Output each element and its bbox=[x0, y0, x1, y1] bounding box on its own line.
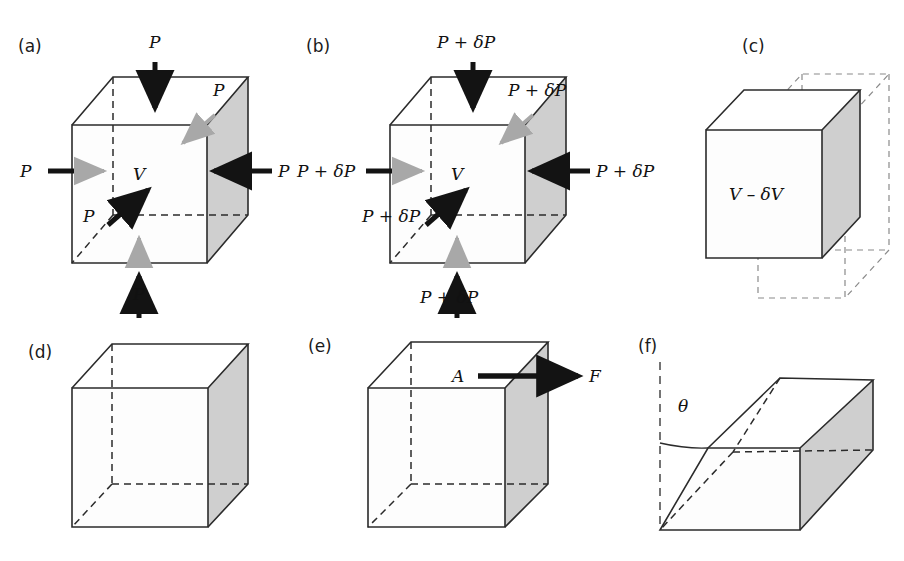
panel-c: (c) V – δV bbox=[706, 36, 889, 298]
panel-c-compressed-cube bbox=[706, 90, 860, 258]
panel-b-top-label: P + δP bbox=[436, 32, 496, 52]
panel-b-bottom-label: P + δP bbox=[419, 287, 479, 307]
panel-a-label: (a) bbox=[18, 36, 42, 56]
figure-canvas: (a) P P P bbox=[0, 0, 904, 561]
panel-f: (f) bbox=[638, 336, 873, 530]
panel-a-bottom-label: P bbox=[132, 284, 145, 304]
panel-b-back-label: P + δP bbox=[507, 80, 567, 100]
panel-d-label: (d) bbox=[28, 342, 52, 362]
panel-a-left-label: P bbox=[19, 161, 32, 181]
panel-f-angle-arc bbox=[660, 443, 708, 448]
panel-f-label: (f) bbox=[638, 336, 657, 356]
panel-d: (d) bbox=[28, 342, 248, 527]
panel-c-label: (c) bbox=[742, 36, 765, 56]
panel-b-volume-label: V bbox=[451, 164, 465, 184]
panel-e-area-label: A bbox=[450, 366, 464, 386]
panel-b-right-label: P + δP bbox=[595, 161, 655, 181]
panel-a-back-label: P bbox=[212, 80, 225, 100]
cube-front-face bbox=[660, 448, 800, 530]
panel-f-sheared-cube bbox=[660, 378, 873, 530]
panel-a-front-label: P bbox=[82, 206, 95, 226]
panel-e-force-label: F bbox=[588, 366, 602, 386]
panel-f-angle-label: θ bbox=[678, 396, 688, 416]
cube-front-face bbox=[368, 388, 505, 527]
panel-a-right-label: P bbox=[277, 161, 290, 181]
panel-a: (a) P P P bbox=[18, 32, 290, 318]
panel-b-front-label: P + δP bbox=[361, 206, 421, 226]
panel-b-label: (b) bbox=[306, 36, 330, 56]
panel-b-left-label: P + δP bbox=[296, 161, 356, 181]
panel-a-top-label: P bbox=[148, 32, 161, 52]
panel-a-volume-label: V bbox=[133, 164, 147, 184]
panel-c-volume-label: V – δV bbox=[729, 184, 785, 204]
panel-b: (b) P + δP P + δP P + δP P + δP bbox=[296, 32, 655, 318]
panel-d-cube bbox=[72, 344, 248, 527]
panel-e: (e) A F bbox=[308, 336, 602, 527]
figure-root: (a) P P P bbox=[0, 0, 904, 561]
panel-e-label: (e) bbox=[308, 336, 332, 356]
